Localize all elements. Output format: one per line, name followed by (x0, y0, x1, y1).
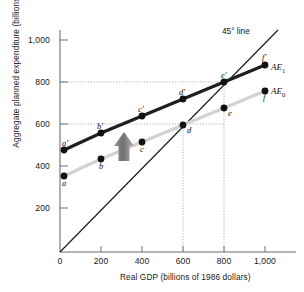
series-label-AE_1-text: AE (271, 62, 282, 72)
point-label-e: e (228, 108, 232, 118)
y-tick-label-200: 200 (16, 203, 50, 213)
point-label-b-prime: b' (97, 121, 103, 131)
series-label-AE_0: AE0 (271, 86, 285, 98)
series-label-AE_1-sub: 1 (282, 67, 285, 74)
point-label-b: b (99, 161, 103, 171)
point-label-c: c (140, 144, 144, 154)
point-label-e-prime: e' (221, 70, 227, 80)
point-label-d-prime: d' (179, 87, 185, 97)
y-tick-label-1000: 1,000 (16, 35, 50, 45)
aggregate-expenditure-chart: Aggregate planned expenditure (billions … (0, 0, 304, 292)
y-tick-label-600: 600 (16, 119, 50, 129)
y-tick-label-800: 800 (16, 77, 50, 87)
series-line-AE_0 (64, 91, 265, 176)
point-label-d: d (187, 125, 191, 135)
x-axis-ticks (101, 246, 265, 252)
series-label-AE_1: AE1 (271, 62, 285, 74)
y-tick-label-400: 400 (16, 161, 50, 171)
series-label-AE_0-text: AE (271, 86, 282, 96)
x-tick-label-0: 0 (43, 256, 77, 266)
series-label-AE_0-sub: 0 (282, 91, 285, 98)
x-axis-title-text: Real GDP (billions of 1986 dollars) (120, 272, 251, 282)
annotation-45-degree-line: 45° line (222, 26, 250, 36)
series-line-45-degree-line (60, 30, 278, 252)
data-point-f-prime (262, 62, 269, 69)
series-line-AE_1 (64, 65, 265, 150)
x-tick-label-800: 800 (207, 256, 241, 266)
data-point-d (180, 122, 187, 129)
point-label-f-prime: f' (262, 52, 266, 62)
point-label-a-prime: a' (62, 138, 68, 148)
x-tick-label-200: 200 (84, 256, 118, 266)
x-tick-label-1000: 1,000 (248, 256, 282, 266)
axes-group (60, 30, 296, 252)
point-label-f: f (263, 92, 265, 102)
x-tick-label-600: 600 (166, 256, 200, 266)
data-point-e (221, 105, 228, 112)
x-tick-label-400: 400 (125, 256, 159, 266)
point-label-c-prime: c' (138, 104, 144, 114)
point-label-a: a (62, 178, 66, 188)
